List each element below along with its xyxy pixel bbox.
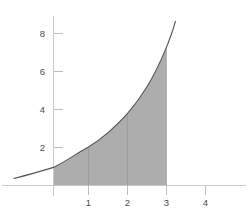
x-tick-label-1: 1	[86, 197, 91, 208]
x-tick-label-4: 4	[203, 197, 208, 208]
y-tick-label-8: 8	[40, 28, 45, 39]
y-tick-label-6: 6	[40, 66, 45, 77]
x-tick-label-2: 2	[125, 197, 130, 208]
chart-svg: 8 6 4 2 1 2 3 4	[0, 0, 248, 215]
chart-figure: 8 6 4 2 1 2 3 4	[0, 0, 248, 215]
x-tick-label-3: 3	[164, 197, 169, 208]
area-under-curve-fill	[54, 48, 167, 186]
y-tick-label-2: 2	[40, 142, 45, 153]
y-tick-label-4: 4	[40, 104, 45, 115]
